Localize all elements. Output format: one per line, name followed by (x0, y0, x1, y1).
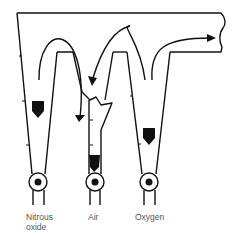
nitrous-label: Nitrous oxide (26, 212, 53, 232)
air-tube-upper-right-wall (105, 52, 113, 100)
nitrous-tube-left-wall (17, 13, 32, 174)
oxygen-label: Oxygen (135, 212, 164, 222)
oxygen-float-icon (143, 128, 155, 145)
nitrous-float-icon (32, 101, 44, 118)
air-valve-icon[interactable] (86, 173, 104, 191)
nitrous-stems (33, 190, 44, 205)
flow-arrow-nitrous-into-air (39, 39, 81, 118)
nitrous-label-line1: Nitrous (26, 212, 53, 222)
air-float-icon (89, 155, 100, 172)
air-stems (90, 190, 100, 205)
oxygen-tube-right-wall (156, 52, 170, 174)
oxygen-tube-left-wall (127, 52, 142, 174)
air-scale-ticks (90, 120, 93, 145)
oxygen-valve-icon[interactable] (140, 173, 158, 191)
air-label: Air (88, 212, 98, 222)
nitrous-valve-icon[interactable] (29, 173, 47, 191)
nitrous-tube-right-wall (45, 52, 57, 174)
manifold-outlet-edge (220, 13, 225, 52)
flowmeter-diagram (0, 0, 235, 236)
oxygen-stems (144, 190, 155, 205)
air-tube-crack (82, 92, 112, 130)
arrowhead-right-outlet (207, 34, 216, 42)
nitrous-label-line2: oxide (26, 222, 53, 232)
hump-1 (57, 52, 82, 92)
flow-arrow-oxygen-to-outlet (152, 38, 210, 80)
arrowhead-down-nitrous (75, 115, 85, 122)
arrowhead-into-crack (88, 76, 97, 86)
